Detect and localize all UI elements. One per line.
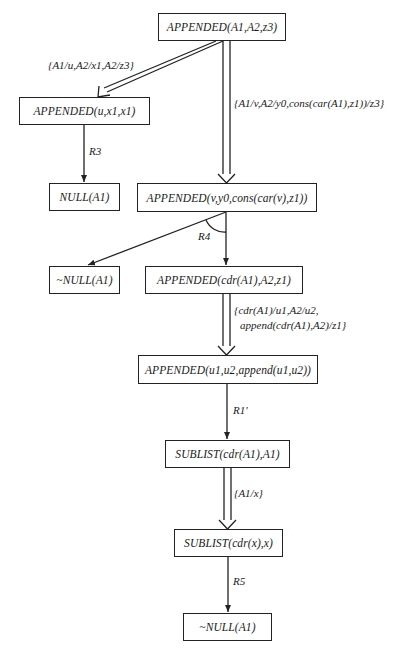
edge-label-substitution-3-line2: append(cdr(A1),A2)/z1} — [240, 318, 346, 332]
node-appended-a1-a2-z3: APPENDED(A1,A2,z3) — [158, 13, 286, 41]
edge-label-r3: R3 — [89, 144, 101, 158]
edge-label-r5: R5 — [233, 574, 245, 588]
node-not-null-a1-final: ~NULL(A1) — [183, 613, 272, 641]
node-null-a1: NULL(A1) — [49, 183, 120, 211]
node-appended-cdr-a1-a2-z1: APPENDED(cdr(A1),A2,z1) — [145, 266, 303, 294]
node-sublist-cdr-a1-a1: SUBLIST(cdr(A1),A1) — [165, 440, 290, 468]
node-not-null-a1: ~NULL(A1) — [49, 266, 120, 294]
edge-label-substitution-2: {A1/v,A2/y0,cons(car(A1),z1))/z3} — [234, 96, 384, 110]
edge-label-r4: R4 — [198, 229, 210, 243]
edge-label-r1-prime: R1' — [233, 403, 248, 417]
double-arrow-n1-n4 — [218, 41, 235, 183]
edge-label-substitution-1: {A1/u,A2/x1,A2/z3} — [48, 58, 134, 72]
node-sublist-cdr-x-x: SUBLIST(cdr(x),x) — [174, 529, 283, 557]
double-arrow-n6-n7 — [218, 294, 235, 355]
edge-label-substitution-3-line1: {cdr(A1)/u1,A2/u2, — [234, 303, 318, 317]
node-appended-u1-u2-append: APPENDED(u1,u2,append(u1,u2)) — [138, 355, 318, 384]
edge-label-substitution-4: {A1/x} — [234, 486, 263, 500]
node-appended-u-x1-x1: APPENDED(u,x1,x1) — [19, 97, 150, 125]
node-appended-v-y0-cons: APPENDED(v,y0,cons(car(v),z1)) — [137, 183, 317, 212]
